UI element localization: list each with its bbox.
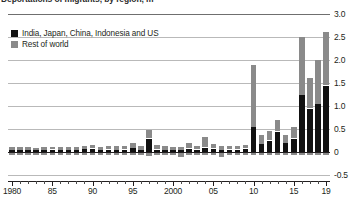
x-axis-tick: [165, 181, 166, 184]
bar-2013: [275, 14, 280, 175]
bar-segment-negative: [90, 153, 95, 155]
bar-segment-negative: [9, 153, 14, 155]
bar-segment-negative: [146, 153, 151, 156]
chart-title-strip: Deportations of migrants, by region, m: [0, 0, 361, 7]
bar-2004: [202, 14, 207, 175]
x-axis-tick: [270, 181, 271, 184]
x-axis-tick: [68, 181, 69, 184]
bar-segment-negative: [291, 153, 296, 155]
bar-segment-negative: [235, 153, 240, 155]
x-axis-labels: 1980859095200005101519: [0, 186, 361, 200]
bar-segment-negative: [211, 153, 216, 155]
bar-segment-negative: [74, 153, 79, 155]
bar-segment-domestic: [307, 108, 312, 152]
bar-segment-negative: [50, 153, 55, 155]
x-axis-tick: [101, 181, 102, 184]
bar-segment-negative: [98, 153, 103, 155]
bar-segment-domestic: [154, 149, 159, 152]
bar-segment-rest: [138, 146, 143, 150]
bar-segment-domestic: [74, 150, 79, 152]
bar-segment-rest: [162, 146, 167, 149]
bar-segment-domestic: [194, 149, 199, 152]
y-axis-tick-label: 1.0: [334, 101, 345, 111]
x-axis-tick: [189, 181, 190, 184]
bar-segment-rest: [186, 143, 191, 149]
x-axis-tick: [318, 181, 319, 184]
bar-segment-domestic: [283, 143, 288, 152]
x-axis-tick: [157, 181, 158, 184]
bar-segment-domestic: [66, 150, 71, 152]
x-axis-tick: [262, 181, 263, 184]
bar-segment-rest: [251, 65, 256, 127]
x-axis-tick: [125, 181, 126, 184]
x-axis-tick: [60, 181, 61, 184]
bar-segment-domestic: [146, 138, 151, 152]
bar-segment-domestic: [130, 148, 135, 152]
x-axis-tick: [197, 181, 198, 184]
bar-segment-negative: [33, 153, 38, 155]
bar-2005: [211, 14, 216, 175]
bar-segment-negative: [41, 153, 46, 155]
bar-segment-domestic: [275, 131, 280, 152]
bar-segment-rest: [170, 147, 175, 150]
bar-segment-negative: [202, 153, 207, 155]
bar-2002: [186, 14, 191, 175]
bar-segment-rest: [82, 146, 87, 149]
bar-2009: [243, 14, 248, 175]
y-axis-tick-label: -0.5: [334, 170, 348, 180]
x-axis-tick: [44, 181, 45, 184]
bar-2018: [315, 14, 320, 175]
x-axis-tick: [149, 181, 150, 184]
bar-segment-domestic: [114, 150, 119, 152]
gridline--0.5: [8, 175, 330, 176]
bar-segment-negative: [307, 153, 312, 155]
bar-segment-rest: [25, 147, 30, 149]
bar-segment-rest: [235, 146, 240, 149]
x-axis-tick: [229, 181, 230, 184]
bar-segment-domestic: [106, 149, 111, 152]
bar-segment-rest: [50, 147, 55, 149]
bar-segment-domestic: [9, 150, 14, 152]
bar-2000: [170, 14, 175, 175]
bar-segment-domestic: [299, 95, 304, 153]
bar-segment-negative: [25, 153, 30, 155]
bar-segment-rest: [211, 144, 216, 149]
bar-segment-negative: [251, 153, 256, 155]
bar-segment-negative: [243, 153, 248, 155]
bar-segment-domestic: [291, 138, 296, 152]
bar-2014: [283, 14, 288, 175]
bar-segment-rest: [178, 147, 183, 150]
bar-segment-negative: [194, 153, 199, 155]
x-axis-label: 19: [321, 186, 330, 196]
bar-1999: [162, 14, 167, 175]
x-axis-tick: [245, 181, 246, 184]
bar-segment-negative: [323, 153, 328, 155]
bar-segment-rest: [315, 60, 320, 104]
x-axis-tick: [109, 181, 110, 184]
bar-segment-negative: [219, 153, 224, 157]
bar-segment-domestic: [186, 148, 191, 152]
bar-segment-domestic: [251, 127, 256, 152]
bar-segment-negative: [106, 153, 111, 155]
bar-segment-domestic: [235, 149, 240, 152]
legend-item-domestic: India, Japan, China, Indonesia and US: [11, 28, 159, 39]
bar-2016: [299, 14, 304, 175]
bar-2019: [323, 14, 328, 175]
bar-segment-negative: [122, 153, 127, 155]
bar-segment-rest: [98, 147, 103, 150]
bar-segment-rest: [130, 143, 135, 148]
bar-segment-rest: [243, 145, 248, 149]
bar-segment-rest: [114, 146, 119, 149]
bar-segment-rest: [227, 146, 232, 149]
bar-segment-domestic: [25, 150, 30, 152]
bar-segment-negative: [315, 153, 320, 155]
bar-segment-rest: [33, 148, 38, 150]
bar-segment-rest: [219, 146, 224, 149]
bar-segment-rest: [66, 147, 71, 149]
bar-segment-domestic: [219, 150, 224, 152]
bar-segment-domestic: [259, 144, 264, 152]
bar-segment-negative: [66, 153, 71, 155]
legend-swatch-icon-rest: [11, 41, 18, 48]
legend-label-rest: Rest of world: [22, 39, 68, 50]
x-axis-label: 95: [128, 186, 137, 196]
